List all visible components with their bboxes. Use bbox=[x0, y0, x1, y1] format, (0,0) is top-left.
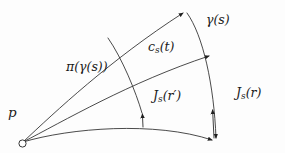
label-cs-t-base: c bbox=[148, 39, 155, 54]
basepoint-p-marker bbox=[19, 140, 26, 147]
label-js-r-argument: (r) bbox=[246, 85, 262, 100]
label-cs-t: cs(t) bbox=[148, 41, 174, 55]
curve-gamma-s bbox=[187, 13, 216, 138]
vector-jacobi-field-js-rprime bbox=[142, 114, 143, 127]
label-basepoint-p: p bbox=[8, 106, 17, 120]
label-gamma-s: γ(s) bbox=[206, 14, 230, 27]
curve-upper-geodesic bbox=[23, 13, 183, 142]
curve-lower-geodesic bbox=[23, 128, 212, 142]
label-js-rprime: Js(r′) bbox=[153, 90, 181, 104]
geodesic-jacobi-diagram: γ(s) cs(t) π(γ(s)) Js(r′) Js(r) p bbox=[0, 0, 285, 153]
label-cs-t-argument: (t) bbox=[160, 39, 175, 54]
label-pi-gamma-s: π(γ(s)) bbox=[66, 61, 108, 74]
diagram-canvas bbox=[0, 0, 285, 153]
label-js-rprime-argument: (r′) bbox=[163, 88, 182, 103]
vector-jacobi-field-js-r bbox=[213, 110, 214, 138]
label-js-r: Js(r) bbox=[236, 87, 261, 101]
curve-pi-gamma-s bbox=[108, 38, 142, 113]
